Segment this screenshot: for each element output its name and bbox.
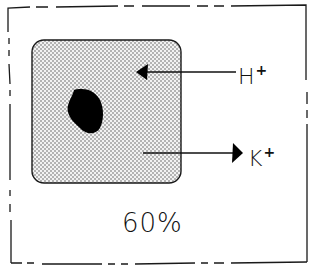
- h-ion-symbol: H: [238, 64, 255, 89]
- cell: [32, 40, 181, 183]
- h-ion-label: H+: [238, 59, 267, 88]
- percentage-label: 60%: [122, 210, 183, 236]
- h-ion-charge: +: [256, 62, 268, 78]
- k-ion-label: K+: [248, 141, 275, 170]
- k-ion-symbol: K: [248, 146, 262, 171]
- k-ion-charge: +: [263, 144, 275, 160]
